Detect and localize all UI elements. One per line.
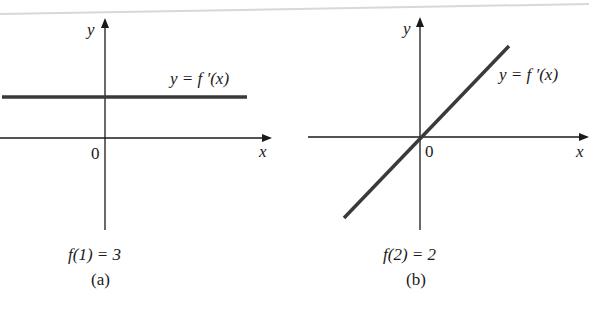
panel-b-x-axis-label: x — [576, 143, 584, 160]
figure-canvas — [0, 0, 589, 312]
panel-b-graph — [308, 19, 587, 230]
page-top-rule — [0, 4, 589, 14]
panel-a-condition: f(1) = 3 — [68, 246, 121, 263]
panel-a-graph — [0, 20, 270, 230]
panel-b-curve-label: y = f ′(x) — [499, 66, 558, 83]
panel-b-condition: f(2) = 2 — [383, 246, 436, 263]
panel-b-origin-label: 0 — [425, 143, 434, 160]
panel-b-y-axis-label: y — [403, 20, 411, 37]
panel-a-origin-label: 0 — [91, 145, 100, 162]
panel-b-caption: (b) — [406, 271, 426, 288]
panel-b-curve — [344, 46, 509, 218]
panel-a-curve-label: y = f ′(x) — [170, 70, 229, 87]
panel-a-y-axis-label: y — [87, 21, 95, 38]
panel-a-caption: (a) — [91, 271, 110, 288]
panel-a-x-axis-label: x — [259, 143, 267, 160]
